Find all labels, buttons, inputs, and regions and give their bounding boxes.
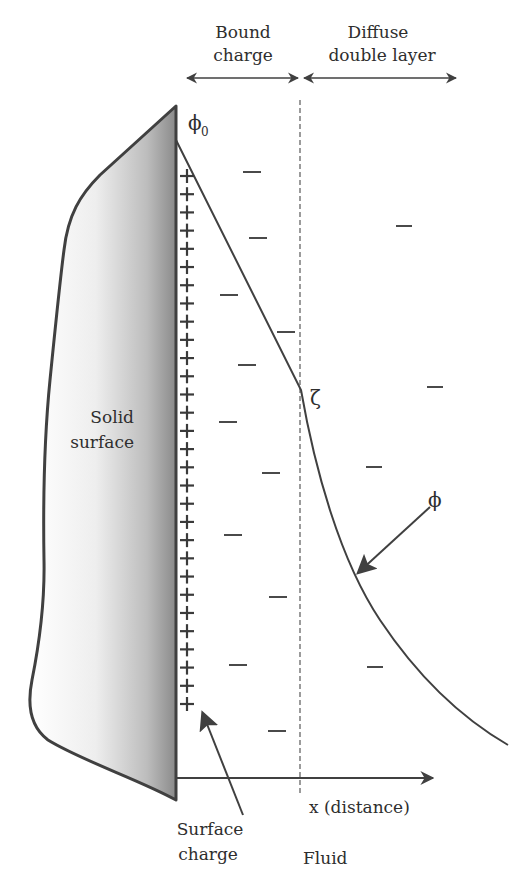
plus-sign (180, 369, 194, 383)
plus-sign (180, 315, 194, 329)
plus-sign (180, 442, 194, 456)
svg-text:ϕ: ϕ (188, 111, 202, 135)
phi0-label: ϕ 0 (188, 111, 209, 139)
plus-sign (180, 205, 194, 219)
plus-sign (180, 333, 194, 347)
plus-sign (180, 406, 194, 420)
diffuse-layer-label: Diffuse double layer (328, 22, 436, 65)
plus-sign (180, 460, 194, 474)
plus-sign (180, 296, 194, 310)
plus-sign (180, 224, 194, 238)
plus-sign (180, 351, 194, 365)
diagram-svg: Bound charge Diffuse double layer Solid … (0, 0, 532, 894)
svg-text:charge: charge (178, 844, 238, 864)
plus-sign (180, 624, 194, 638)
plus-sign (180, 588, 194, 602)
plus-sign (180, 497, 194, 511)
plus-sign (180, 606, 194, 620)
svg-text:Bound: Bound (215, 22, 271, 42)
phi-label: ϕ (428, 488, 442, 512)
svg-text:Surface: Surface (177, 819, 244, 839)
plus-sign (180, 533, 194, 547)
zeta-label: ζ (310, 386, 321, 410)
plus-sign (180, 661, 194, 675)
negative-charges (219, 172, 443, 731)
plus-sign (180, 278, 194, 292)
plus-sign (180, 387, 194, 401)
surface-charge-pointer-arrow (203, 714, 243, 815)
plus-sign (180, 551, 194, 565)
plus-sign (180, 642, 194, 656)
x-axis-label: x (distance) (309, 797, 410, 817)
plus-sign (180, 679, 194, 693)
svg-text:charge: charge (213, 45, 273, 65)
plus-sign (180, 479, 194, 493)
svg-text:Diffuse: Diffuse (348, 22, 409, 42)
positive-charges (180, 169, 194, 711)
plus-sign (180, 570, 194, 584)
svg-text:0: 0 (201, 125, 209, 139)
plus-sign (180, 697, 194, 711)
fluid-label: Fluid (303, 848, 348, 868)
plus-sign (180, 260, 194, 274)
surface-charge-label: Surface charge (177, 819, 244, 864)
plus-sign (180, 187, 194, 201)
plus-sign (180, 515, 194, 529)
potential-curve (176, 140, 508, 745)
phi-pointer-arrow (359, 507, 430, 572)
double-layer-diagram: Bound charge Diffuse double layer Solid … (0, 0, 532, 894)
svg-text:surface: surface (70, 432, 134, 452)
svg-text:double layer: double layer (328, 45, 436, 65)
bound-charge-label: Bound charge (213, 22, 273, 65)
svg-text:Solid: Solid (90, 407, 134, 427)
plus-sign (180, 242, 194, 256)
solid-surface-shape (30, 106, 176, 800)
plus-sign (180, 424, 194, 438)
